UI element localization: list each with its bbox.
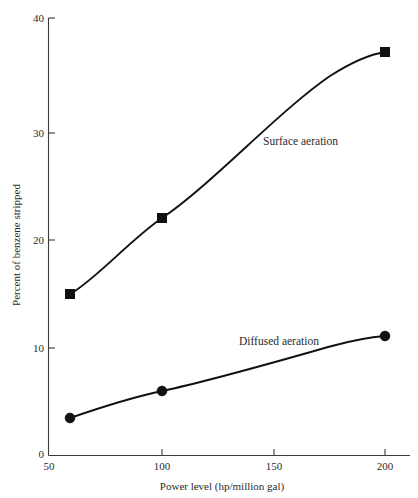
surface-aeration-marker-60 bbox=[66, 290, 75, 299]
y-tick-label-0: 0 bbox=[39, 448, 45, 460]
x-axis-title: Power level (hp/million gal) bbox=[160, 480, 285, 493]
chart-background bbox=[0, 0, 418, 498]
x-tick-label-50: 50 bbox=[44, 460, 56, 472]
x-tick-label-150: 150 bbox=[266, 460, 283, 472]
y-tick-label-40: 40 bbox=[33, 12, 45, 24]
chart-figure: 40 30 20 10 0 50 100 150 200 Power level… bbox=[0, 0, 418, 498]
y-tick-label-30: 30 bbox=[33, 127, 45, 139]
surface-aeration-marker-200 bbox=[381, 48, 390, 57]
benzene-stripping-line-chart: 40 30 20 10 0 50 100 150 200 Power level… bbox=[0, 0, 418, 498]
surface-aeration-marker-100 bbox=[158, 214, 167, 223]
y-tick-label-10: 10 bbox=[33, 342, 45, 354]
diffused-aeration-marker-60 bbox=[65, 413, 75, 423]
x-tick-label-100: 100 bbox=[154, 460, 171, 472]
diffused-aeration-annotation: Diffused aeration bbox=[239, 335, 319, 347]
diffused-aeration-marker-200 bbox=[380, 331, 390, 341]
y-tick-label-20: 20 bbox=[33, 234, 45, 246]
y-axis-title: Percent of benzene stripped bbox=[10, 184, 22, 306]
diffused-aeration-marker-100 bbox=[157, 386, 167, 396]
surface-aeration-annotation: Surface aeration bbox=[263, 135, 338, 147]
x-tick-label-200: 200 bbox=[377, 460, 394, 472]
